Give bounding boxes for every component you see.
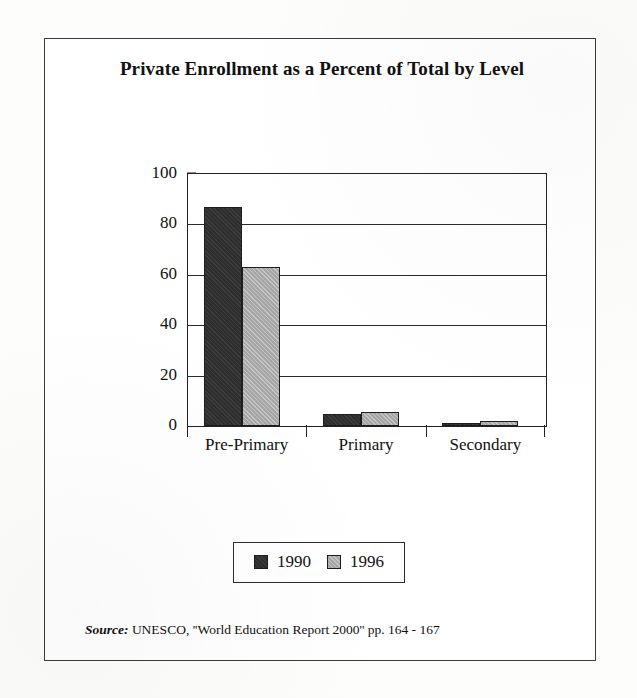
source-text: UNESCO, ''World Education Report 2000'' … xyxy=(132,622,440,637)
y-tick-label: 100 xyxy=(131,163,177,183)
x-label-primary: Primary xyxy=(339,435,394,455)
y-tick-label: 40 xyxy=(131,314,177,334)
x-label-secondary: Secondary xyxy=(449,435,521,455)
legend: 1990 1996 xyxy=(233,542,405,583)
bar-1996-pre-primary xyxy=(242,267,280,426)
x-axis-category-labels: Pre-PrimaryPrimarySecondary xyxy=(187,435,545,465)
bar-1996-primary xyxy=(361,412,399,426)
y-tick-label: 60 xyxy=(131,264,177,284)
legend-item-1990: 1990 xyxy=(254,552,311,572)
bars-layer xyxy=(188,174,546,426)
x-axis-tick-marks xyxy=(187,425,545,435)
y-tick-label: 0 xyxy=(131,415,177,435)
y-axis-tick-labels: 020406080100 xyxy=(141,173,187,425)
plot-wrapper: Percentage 020406080100 Pre-PrimaryPrima… xyxy=(141,135,551,435)
bar-1990-pre-primary xyxy=(204,207,242,426)
source-line: Source: UNESCO, ''World Education Report… xyxy=(85,622,440,638)
y-tick-label: 20 xyxy=(131,365,177,385)
source-label: Source: xyxy=(85,622,129,637)
legend-label-1990: 1990 xyxy=(277,552,311,572)
legend-swatch-1996-icon xyxy=(327,555,341,569)
legend-item-1996: 1996 xyxy=(327,552,384,572)
y-tick-label: 80 xyxy=(131,213,177,233)
legend-swatch-1990-icon xyxy=(254,555,268,569)
figure-frame: Private Enrollment as a Percent of Total… xyxy=(44,38,596,661)
scanned-page: Private Enrollment as a Percent of Total… xyxy=(0,0,637,698)
plot-area xyxy=(187,173,547,427)
chart-title: Private Enrollment as a Percent of Total… xyxy=(81,57,563,82)
x-label-pre-primary: Pre-Primary xyxy=(205,435,288,455)
legend-label-1996: 1996 xyxy=(350,552,384,572)
